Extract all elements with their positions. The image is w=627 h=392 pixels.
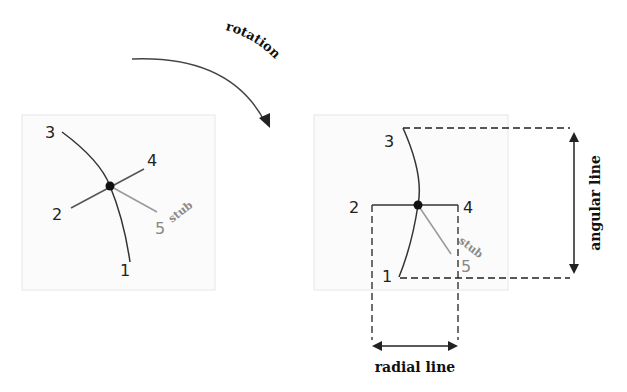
label-2: 2 — [52, 205, 62, 224]
right-panel: 3 2 4 5 1 stub angular line radial line — [314, 115, 603, 375]
label-4: 4 — [147, 151, 157, 170]
label-3: 3 — [45, 123, 55, 142]
label-1: 1 — [382, 267, 392, 286]
label-2: 2 — [349, 198, 359, 217]
angular-line-label: angular line — [587, 155, 603, 251]
center-node — [414, 201, 423, 210]
right-panel-box — [314, 115, 508, 290]
label-4: 4 — [463, 198, 473, 217]
left-panel: 3 4 2 5 1 stub — [22, 115, 215, 290]
rotation-label: rotation — [224, 18, 284, 61]
label-3: 3 — [384, 132, 394, 151]
label-5: 5 — [461, 257, 471, 276]
label-5: 5 — [155, 219, 165, 238]
radial-line-label: radial line — [375, 359, 456, 375]
center-node — [106, 182, 115, 191]
rotation-diagram: rotation 3 4 2 5 1 stub 3 2 4 5 — [0, 0, 627, 392]
label-1: 1 — [120, 261, 130, 280]
